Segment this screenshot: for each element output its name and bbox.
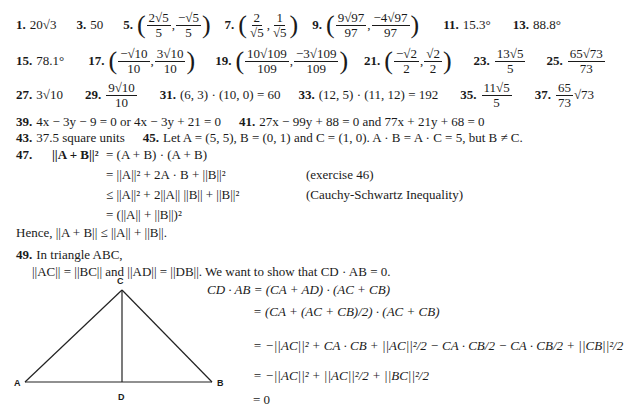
answer-47-line-2: = ||A||² + 2A · B + ||B||² (exercise 46)	[16, 165, 463, 185]
answer-29: 29.9√1010	[85, 81, 138, 109]
answer-47: 47. ||A + B||² = (A + B) · (A + B) = ||A…	[16, 145, 463, 243]
proof-step-5: = 0	[253, 390, 270, 410]
answer-37: 37.6573√73	[535, 81, 594, 109]
proof-step-1: CD · AB = (CA + AD) · (AC + CB)	[207, 280, 390, 300]
answer-9: 9.(9√9797,−4√9797)	[312, 11, 419, 39]
proof-step-3: = −||AC||² + CA · CB + ||AC||²/2 − CA · …	[253, 336, 623, 356]
answers-row-2: 15.78.1° 17.(−√1010,3√1010) 19.(10√10910…	[16, 44, 606, 78]
answer-15: 15.78.1°	[16, 53, 64, 69]
answer-45: 45.Let A = (5, 5), B = (0, 1) and C = (1…	[143, 130, 523, 146]
answer-43: 43.37.5 square units	[16, 130, 125, 146]
answer-21: 21.(−√22,√22)	[364, 47, 451, 75]
answer-47-line-3: ≤ ||A||² + 2||A|| ||B|| + ||B||² (Cauchy…	[16, 185, 463, 205]
answer-13: 13.88.8°	[513, 17, 561, 33]
answer-17: 17.(−√1010,3√1010)	[88, 47, 195, 75]
answer-3: 3.50	[76, 17, 103, 33]
answer-7: 7.(2√5,1√5)	[225, 11, 299, 39]
answer-1: 1.20√3	[16, 17, 56, 33]
vertex-label-d: D	[118, 392, 125, 402]
answer-11: 11.15.3°	[443, 17, 491, 33]
answer-25: 25.65√7373	[546, 47, 605, 75]
answer-47-line-4: = (||A|| + ||B||)²	[16, 205, 463, 225]
answer-31: 31.(6, 3) · (10, 0) = 60	[160, 87, 281, 103]
vertex-label-c: C	[117, 276, 124, 286]
answer-33: 33.(12, 5) · (11, 12) = 192	[299, 87, 439, 103]
answer-5: 5.(2√55,−√55)	[123, 11, 210, 39]
answer-27: 27.3√10	[16, 87, 63, 103]
answer-35: 35.11√55	[460, 81, 512, 109]
answer-23: 23.13√55	[474, 47, 527, 75]
vertex-label-a: A	[14, 378, 21, 388]
answer-47-conclusion: Hence, ||A + B|| ≤ ||A|| + ||B||.	[16, 223, 463, 243]
vertex-label-b: B	[217, 378, 224, 388]
proof-step-4: = −||AC||² + ||AC||²/2 + ||BC||²/2	[253, 366, 429, 386]
answers-row-1: 1.20√3 3.50 5.(2√55,−√55) 7.(2√5,1√5) 9.…	[16, 8, 561, 42]
proof-step-2: = (CA + (AC + CB)/2) · (AC + CB)	[253, 302, 440, 322]
triangle-diagram	[0, 270, 240, 410]
answers-row-3: 27.3√10 29.9√1010 31.(6, 3) · (10, 0) = …	[16, 80, 594, 110]
answer-19: 19.(10√109109,−3√109109)	[215, 47, 348, 75]
answer-47-line-1: 47. ||A + B||² = (A + B) · (A + B)	[16, 145, 463, 165]
